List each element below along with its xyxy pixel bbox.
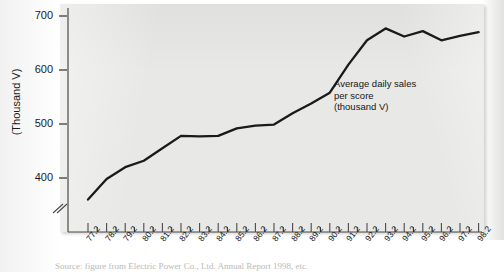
source-note: Source: figure from Electric Power Co., …	[55, 261, 308, 271]
figure-container: (Thousand V) Average daily sales per sco…	[0, 0, 504, 272]
y-tick-label: 500	[13, 117, 53, 129]
y-tick-label: 700	[13, 9, 53, 21]
annotation-line-2: per score	[334, 90, 416, 102]
y-tick-label: 400	[13, 171, 53, 183]
annotation-line-3: (thousand V)	[334, 101, 416, 113]
annotation-line-1: Average daily sales	[334, 78, 416, 90]
y-tick-label: 600	[13, 63, 53, 75]
series-annotation: Average daily sales per score (thousand …	[334, 78, 416, 113]
